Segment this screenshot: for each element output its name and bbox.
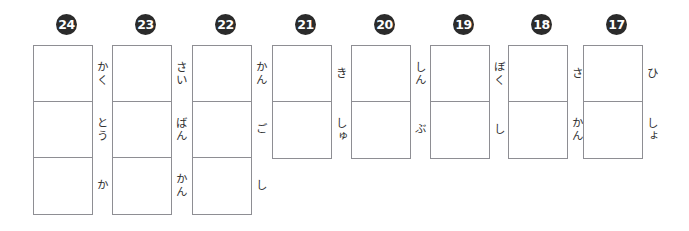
answer-box-stack bbox=[583, 45, 643, 159]
answer-cell[interactable] bbox=[193, 102, 251, 158]
answer-cell[interactable] bbox=[34, 46, 92, 102]
furigana-text: かん bbox=[570, 117, 583, 142]
furigana-readings: かくとうか bbox=[95, 45, 111, 213]
furigana-text: き bbox=[334, 67, 347, 80]
answer-cell[interactable] bbox=[509, 46, 567, 102]
furigana-text: かく bbox=[95, 61, 108, 86]
answer-cell[interactable] bbox=[431, 102, 489, 158]
answer-box-stack bbox=[430, 45, 490, 159]
problem-number-badge: 17 bbox=[606, 14, 627, 35]
furigana-readings: きしゅ bbox=[334, 45, 350, 157]
answer-box-stack bbox=[351, 45, 411, 159]
furigana-reading: とう bbox=[95, 101, 111, 157]
furigana-reading: かく bbox=[95, 45, 111, 101]
answer-cell[interactable] bbox=[273, 102, 331, 158]
furigana-readings: かんごし bbox=[254, 45, 270, 213]
furigana-text: とう bbox=[95, 117, 108, 142]
answer-cell[interactable] bbox=[509, 102, 567, 158]
answer-cell[interactable] bbox=[113, 158, 171, 214]
kanji-worksheet: 24かくとうか23さいばんかん22かんごし21きしゅ20しんぶ19ぼくし18さか… bbox=[0, 0, 689, 231]
furigana-text: ひ bbox=[645, 67, 658, 80]
answer-cell[interactable] bbox=[352, 102, 410, 158]
answer-cell[interactable] bbox=[431, 46, 489, 102]
answer-cell[interactable] bbox=[584, 102, 642, 158]
furigana-reading: しゅ bbox=[334, 101, 350, 157]
furigana-reading: かん bbox=[174, 157, 190, 213]
furigana-reading: かん bbox=[254, 45, 270, 101]
furigana-reading: ひ bbox=[645, 45, 661, 101]
furigana-text: さ bbox=[570, 67, 583, 80]
problem-number-badge: 22 bbox=[215, 14, 236, 35]
furigana-reading: しん bbox=[413, 45, 429, 101]
furigana-reading: き bbox=[334, 45, 350, 101]
problem-number-badge: 20 bbox=[374, 14, 395, 35]
problem-number-badge: 23 bbox=[135, 14, 156, 35]
furigana-reading: さい bbox=[174, 45, 190, 101]
furigana-reading: し bbox=[492, 101, 508, 157]
answer-cell[interactable] bbox=[113, 102, 171, 158]
problem-number-badge: 19 bbox=[453, 14, 474, 35]
answer-cell[interactable] bbox=[34, 102, 92, 158]
furigana-text: し bbox=[492, 123, 505, 136]
furigana-readings: ひしょ bbox=[645, 45, 661, 157]
problem-number-badge: 21 bbox=[295, 14, 316, 35]
furigana-text: しん bbox=[413, 61, 426, 86]
answer-cell[interactable] bbox=[584, 46, 642, 102]
furigana-reading: ぼく bbox=[492, 45, 508, 101]
answer-box-stack bbox=[272, 45, 332, 159]
furigana-reading: ばん bbox=[174, 101, 190, 157]
furigana-text: しょ bbox=[645, 117, 658, 142]
problem-number-badge: 18 bbox=[531, 14, 552, 35]
answer-box-stack bbox=[508, 45, 568, 159]
answer-cell[interactable] bbox=[352, 46, 410, 102]
furigana-text: ご bbox=[254, 123, 267, 136]
answer-box-stack bbox=[192, 45, 252, 215]
answer-cell[interactable] bbox=[193, 46, 251, 102]
furigana-text: ぼく bbox=[492, 61, 505, 86]
furigana-readings: しんぶ bbox=[413, 45, 429, 157]
furigana-reading: しょ bbox=[645, 101, 661, 157]
furigana-text: ばん bbox=[174, 117, 187, 142]
furigana-reading: ご bbox=[254, 101, 270, 157]
answer-cell[interactable] bbox=[113, 46, 171, 102]
furigana-text: さい bbox=[174, 61, 187, 86]
answer-cell[interactable] bbox=[273, 46, 331, 102]
furigana-text: し bbox=[254, 179, 267, 192]
furigana-text: かん bbox=[254, 61, 267, 86]
answer-cell[interactable] bbox=[34, 158, 92, 214]
answer-box-stack bbox=[33, 45, 93, 215]
furigana-text: ぶ bbox=[413, 123, 426, 136]
furigana-readings: さいばんかん bbox=[174, 45, 190, 213]
answer-cell[interactable] bbox=[193, 158, 251, 214]
furigana-text: か bbox=[95, 179, 108, 192]
furigana-reading: ぶ bbox=[413, 101, 429, 157]
furigana-readings: ぼくし bbox=[492, 45, 508, 157]
furigana-reading: か bbox=[95, 157, 111, 213]
problem-number-badge: 24 bbox=[56, 14, 77, 35]
furigana-text: かん bbox=[174, 173, 187, 198]
furigana-reading: し bbox=[254, 157, 270, 213]
furigana-text: しゅ bbox=[334, 117, 347, 142]
answer-box-stack bbox=[112, 45, 172, 215]
